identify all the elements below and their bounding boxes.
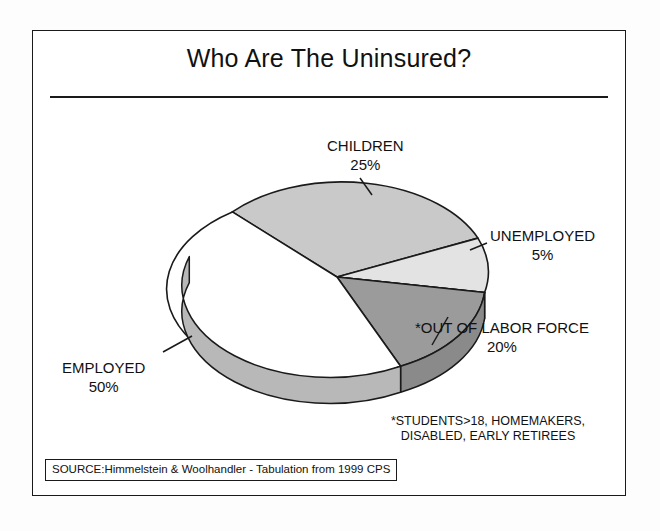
slice-label-out-of-labor-force-name: *OUT OF LABOR FORCE bbox=[415, 319, 589, 336]
slice-label-children-name: CHILDREN bbox=[327, 137, 404, 154]
slice-label-employed-value: 50% bbox=[62, 377, 145, 396]
leader-line-employed bbox=[163, 336, 192, 352]
slice-label-unemployed: UNEMPLOYED 5% bbox=[490, 226, 595, 264]
slice-label-employed: EMPLOYED 50% bbox=[62, 358, 145, 396]
footnote-line-1: *STUDENTS>18, HOMEMAKERS, bbox=[368, 414, 608, 429]
footnote-line-2: DISABLED, EARLY RETIREES bbox=[368, 429, 608, 444]
slice-label-unemployed-name: UNEMPLOYED bbox=[490, 227, 595, 244]
slice-label-children: CHILDREN 25% bbox=[327, 136, 404, 174]
slice-label-unemployed-value: 5% bbox=[490, 245, 595, 264]
slice-label-children-value: 25% bbox=[327, 155, 404, 174]
source-citation: SOURCE:Himmelstein & Woolhandler - Tabul… bbox=[45, 459, 397, 481]
slide-canvas: Who Are The Uninsured? CHILDREN 25% bbox=[0, 0, 660, 531]
slice-label-employed-name: EMPLOYED bbox=[62, 359, 145, 376]
footnote: *STUDENTS>18, HOMEMAKERS, DISABLED, EARL… bbox=[368, 414, 608, 444]
pie-chart bbox=[0, 0, 660, 531]
slice-label-out-of-labor-force: *OUT OF LABOR FORCE 20% bbox=[415, 318, 589, 356]
slice-label-out-of-labor-force-value: 20% bbox=[415, 337, 589, 356]
